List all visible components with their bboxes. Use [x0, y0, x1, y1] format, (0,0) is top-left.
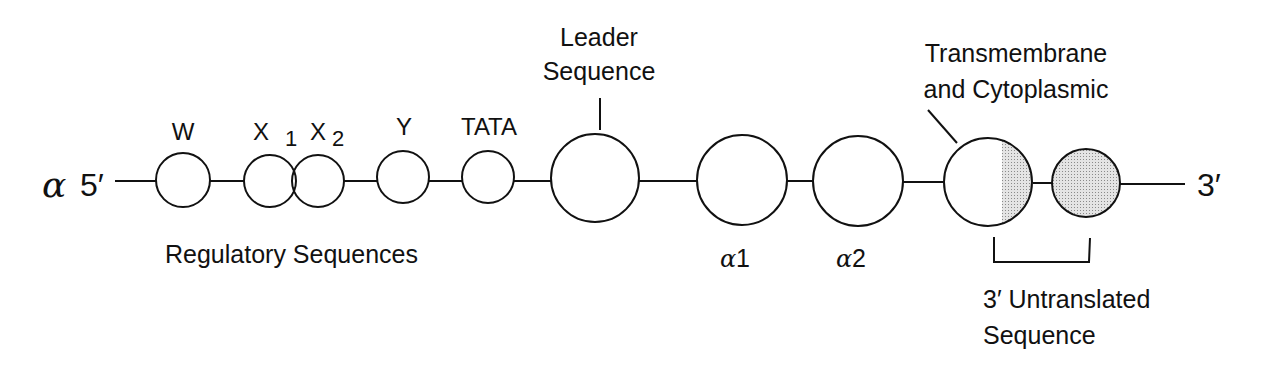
element-leader-circle [551, 134, 639, 222]
gene-diagram: α 5′ 3′ W X 1 X 2 Y TATA Leader Seque [0, 0, 1268, 369]
gene-label: α [42, 164, 66, 205]
label-x1: X [253, 118, 269, 145]
label-x1-sub: 1 [285, 126, 297, 151]
tm-pointer-line [928, 110, 957, 143]
utr-label-line2: Sequence [983, 321, 1096, 349]
element-utr-circle [1052, 149, 1120, 217]
element-y-circle [377, 151, 429, 203]
label-x2: X [310, 118, 326, 145]
label-tata: TATA [461, 113, 517, 140]
regulatory-label: Regulatory Sequences [165, 240, 418, 268]
utr-bracket [994, 237, 1090, 262]
three-prime-label: 3′ [1197, 167, 1221, 203]
alpha2-num: 2 [852, 244, 866, 272]
label-x2-sub: 2 [332, 126, 344, 151]
utr-label-line1: 3′ Untranslated [983, 285, 1150, 313]
element-w-circle [156, 153, 210, 207]
leader-label-line2: Sequence [543, 57, 656, 85]
element-x2-circle [292, 155, 344, 207]
element-alpha2-circle [813, 136, 903, 226]
element-tata-circle [462, 151, 514, 203]
alpha1-greek: α [720, 245, 736, 273]
tm-label-line1: Transmembrane [925, 39, 1107, 67]
alpha2-greek: α [836, 245, 852, 273]
label-w: W [172, 118, 195, 145]
leader-label-line1: Leader [560, 23, 638, 51]
label-y: Y [396, 113, 412, 140]
element-x1-circle [244, 155, 296, 207]
five-prime-label: 5′ [80, 167, 104, 203]
tm-shaded-half [1002, 130, 1042, 240]
element-alpha1-circle [697, 135, 787, 225]
tm-label-line2: and Cytoplasmic [924, 75, 1109, 103]
alpha1-num: 1 [736, 244, 750, 272]
